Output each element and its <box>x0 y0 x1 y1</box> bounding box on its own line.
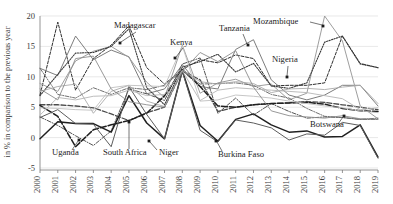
x-tick-2019: 2019 <box>370 176 380 193</box>
series-label-madagascar: Madagascar <box>114 20 156 30</box>
x-tick-2002: 2002 <box>68 176 78 193</box>
line-chart-figure: 20151050-5 20002001200220032004200520062… <box>0 0 393 204</box>
x-tick-2000: 2000 <box>32 176 42 193</box>
leader-marker-mozambique <box>322 25 325 28</box>
leader-line-mozambique <box>310 22 322 25</box>
gridlines-group <box>40 16 378 168</box>
series-label-burkina-faso: Burkina Faso <box>218 149 264 159</box>
leader-line-tanzania <box>243 34 247 44</box>
x-axis-tick-labels: 2000200120022003200420052006200720082009… <box>32 175 380 193</box>
y-axis-title-group: in % in comparison to the previous year <box>3 26 12 157</box>
leader-marker-niger <box>148 140 151 143</box>
x-tick-2003: 2003 <box>85 176 95 193</box>
x-tick-2011: 2011 <box>228 176 238 193</box>
series-label-nigeria: Nigeria <box>272 54 298 64</box>
x-tick-2004: 2004 <box>103 175 113 193</box>
series-label-mozambique: Mozambique <box>253 16 299 26</box>
leader-marker-kenya <box>174 57 177 60</box>
y-axis-title: in % in comparison to the previous year <box>3 26 12 157</box>
x-tick-2014: 2014 <box>281 175 291 193</box>
chart-canvas: 20151050-5 20002001200220032004200520062… <box>0 0 393 204</box>
y-tick-15: 15 <box>27 41 36 51</box>
y-tick--5: -5 <box>28 163 35 173</box>
series-label-south-africa: South Africa <box>103 147 147 157</box>
x-tick-2017: 2017 <box>334 176 344 193</box>
leader-line-kenya <box>176 48 183 57</box>
x-tick-2006: 2006 <box>139 176 149 193</box>
y-tick-0: 0 <box>31 133 35 143</box>
x-tick-2013: 2013 <box>263 176 273 193</box>
x-tick-2018: 2018 <box>352 176 362 193</box>
leader-marker-botswana <box>343 115 346 118</box>
leader-marker-uganda <box>78 139 81 142</box>
x-tick-2010: 2010 <box>210 176 220 193</box>
series-label-tanzania: Tanzania <box>219 23 250 33</box>
leader-line-niger <box>150 142 157 150</box>
x-tick-2001: 2001 <box>50 176 60 193</box>
x-tick-2005: 2005 <box>121 176 131 193</box>
x-tick-2008: 2008 <box>174 176 184 193</box>
y-tick-20: 20 <box>27 11 36 21</box>
x-tick-2015: 2015 <box>299 176 309 193</box>
series-label-kenya: Kenya <box>170 37 193 47</box>
leader-marker-tanzania <box>247 44 250 47</box>
y-axis-tick-labels: 20151050-5 <box>27 11 36 173</box>
y-tick-5: 5 <box>31 102 35 112</box>
leader-line-nigeria <box>287 66 288 76</box>
leader-marker-south-africa <box>128 121 131 124</box>
series-label-botswana: Botswana <box>310 119 344 129</box>
leader-marker-burkina-faso <box>215 140 218 143</box>
series-label-niger: Niger <box>159 147 179 157</box>
series-label-uganda: Uganda <box>52 147 79 157</box>
leader-marker-madagascar <box>119 42 122 45</box>
x-tick-2016: 2016 <box>317 176 327 193</box>
leader-marker-nigeria <box>286 76 289 79</box>
y-tick-10: 10 <box>27 72 36 82</box>
x-tick-2009: 2009 <box>192 176 202 193</box>
x-tick-2012: 2012 <box>245 176 255 193</box>
data-series-group <box>40 16 378 158</box>
x-tick-2007: 2007 <box>157 176 167 193</box>
